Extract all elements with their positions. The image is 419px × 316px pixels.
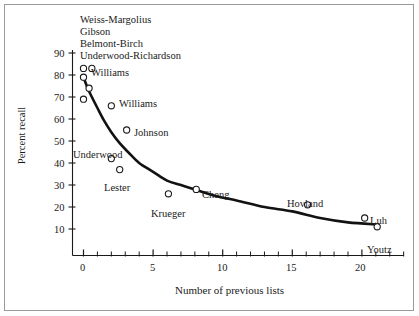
y-tick-label-30: 30	[54, 181, 65, 192]
point-label-luh: Luh	[370, 216, 387, 227]
point-label-hovland: Hovland	[287, 199, 323, 210]
y-tick-label-20: 20	[54, 203, 65, 214]
data-point-luh-12	[362, 215, 368, 221]
x-tick-label-20: 20	[355, 263, 366, 274]
top-label-1: Gibson	[80, 27, 110, 38]
data-point-johnson-6	[124, 127, 130, 133]
data-point-belmont-birch-2	[80, 74, 86, 80]
data-point-williams-5	[108, 103, 114, 109]
y-tick-label-80: 80	[54, 71, 65, 82]
y-tick-label-40: 40	[54, 159, 65, 170]
y-axis-title-text: Percent recall	[16, 107, 27, 164]
data-point-underwood-richardson-3	[86, 85, 92, 91]
y-tick-label-10: 10	[54, 225, 65, 236]
y-tick-label-60: 60	[54, 115, 65, 126]
x-tick-label-15: 15	[286, 263, 297, 274]
y-tick-label-50: 50	[54, 137, 65, 148]
point-label-johnson: Johnson	[134, 128, 168, 139]
data-point-cheng-10	[193, 186, 199, 192]
top-label-2: Belmont-Birch	[80, 39, 143, 50]
y-tick-label-70: 70	[54, 93, 65, 104]
data-point-weiss-margolius-0	[80, 65, 86, 71]
point-label-underwood: Underwood	[73, 150, 123, 161]
point-label-williams-1: Williams	[91, 68, 129, 79]
data-point-krueger-9	[165, 191, 171, 197]
top-label-0: Weiss-Margolius	[80, 15, 151, 26]
x-tick-label-0: 0	[80, 263, 85, 274]
top-label-3: Underwood-Richardson	[80, 51, 181, 62]
chart-figure: Weiss-Margolius Gibson Belmont-Birch Und…	[0, 0, 419, 316]
data-point-williams-4	[80, 96, 86, 102]
point-label-lester: Lester	[104, 183, 130, 194]
x-tick-label-10: 10	[217, 263, 228, 274]
point-label-youtz: Youtz	[367, 245, 392, 256]
point-label-cheng: Cheng	[202, 190, 229, 201]
x-axis-title: Number of previous lists	[175, 285, 284, 296]
x-tick-label-5: 5	[150, 263, 155, 274]
y-axis-title: Percent recall	[16, 28, 27, 128]
point-label-krueger: Krueger	[151, 209, 185, 220]
y-tick-label-90: 90	[54, 49, 65, 60]
data-point-lester-8	[117, 167, 123, 173]
point-label-williams-2: Williams	[119, 99, 157, 110]
